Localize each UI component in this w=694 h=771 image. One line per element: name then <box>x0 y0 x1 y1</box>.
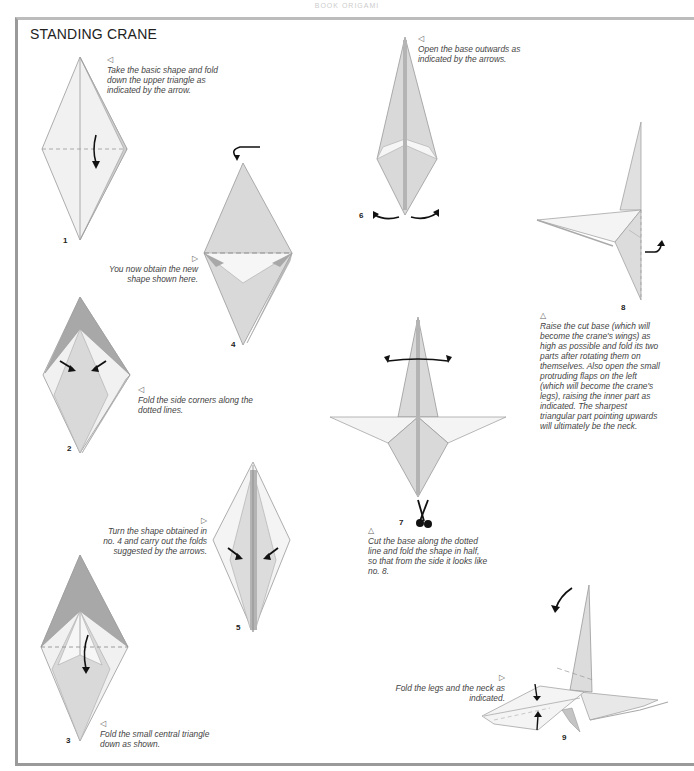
page-title: STANDING CRANE <box>30 26 157 42</box>
step-9-number: 9 <box>562 733 566 742</box>
left-triangle-icon: ◁ <box>418 34 548 44</box>
open-right-arrow-icon <box>411 213 437 218</box>
step-4-diagram <box>200 145 300 350</box>
step-5-caption: ▷ Turn the shape obtained in no. 4 and c… <box>100 516 207 556</box>
step-9-diagram <box>480 580 680 730</box>
step-2-number: 2 <box>67 444 71 453</box>
step-8-diagram <box>535 120 670 310</box>
open-left-arrow-icon <box>375 215 399 219</box>
page-header: BOOK ORIGAMI <box>0 2 694 9</box>
step-4-caption: ▷ You now obtain the new shape shown her… <box>100 254 198 284</box>
step-1-caption: ◁ Take the basic shape and fold down the… <box>107 55 232 95</box>
up-triangle-icon: △ <box>540 311 660 321</box>
step-3-diagram <box>40 553 135 743</box>
step-4-number: 4 <box>231 340 235 349</box>
right-triangle-icon: ▷ <box>380 673 505 683</box>
step-5-number: 5 <box>236 623 240 632</box>
fold-up-small-arrow-icon <box>537 715 538 730</box>
step-8-caption: △ Raise the cut base (which will become … <box>540 311 660 431</box>
step-9-caption: ▷ Fold the legs and the neck as indicate… <box>380 673 505 703</box>
step-7-diagram <box>328 315 513 520</box>
up-triangle-icon: △ <box>368 526 488 536</box>
neck-fold-arrow-icon <box>556 588 572 608</box>
right-triangle-icon: ▷ <box>100 254 198 264</box>
step-1-number: 1 <box>63 236 67 245</box>
step-3-number: 3 <box>66 736 70 745</box>
raise-arrow-icon <box>645 246 661 252</box>
left-triangle-icon: ◁ <box>138 385 263 395</box>
step-2-caption: ◁ Fold the side corners along the dotted… <box>138 385 263 415</box>
step-5-diagram <box>210 460 295 635</box>
left-triangle-icon: ◁ <box>107 55 232 65</box>
right-triangle-icon: ▷ <box>100 516 207 526</box>
step-7-caption: △ Cut the base along the dotted line and… <box>368 526 488 576</box>
step-3-caption: ◁ Fold the small central triangle down a… <box>100 719 230 749</box>
step-6-number: 6 <box>359 211 363 220</box>
step-2-diagram <box>40 295 140 455</box>
left-triangle-icon: ◁ <box>100 719 230 729</box>
step-6-caption: ◁ Open the base outwards as indicated by… <box>418 34 548 64</box>
